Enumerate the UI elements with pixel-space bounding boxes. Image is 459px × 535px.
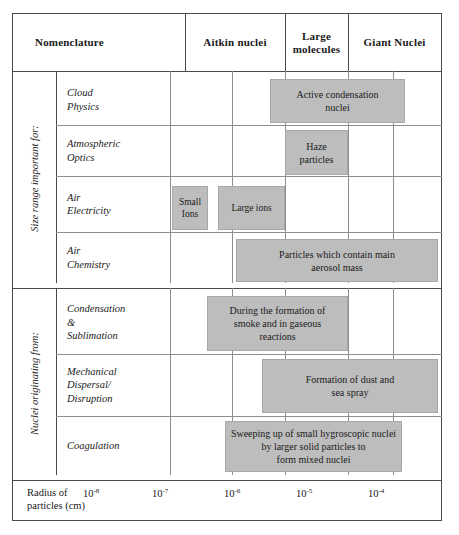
bar-main-aerosol-mass: Particles which contain main aerosol mas… <box>236 239 438 282</box>
bar-coagulation-sweeping: Sweeping up of small hygroscopic nuclei … <box>225 421 402 472</box>
axis-tick-3: 10-5 <box>296 488 312 499</box>
row-rule-3 <box>56 232 442 233</box>
row-label-air-chemistry: Air Chemistry <box>56 232 181 283</box>
row-label-air-electricity: Air Electricity <box>56 176 181 232</box>
header-nomenclature: Nomenclature <box>13 14 207 71</box>
axis-top-rule <box>13 480 442 481</box>
section-divider <box>13 288 442 289</box>
row-label-coagulation: Coagulation <box>56 416 181 475</box>
header-bottom-rule <box>13 71 442 72</box>
grid-line-1 <box>232 71 233 283</box>
axis-tick-2: 10-6 <box>224 488 240 499</box>
header-divider-1 <box>185 14 186 71</box>
bar-small-ions: Small Ions <box>172 186 208 230</box>
header-divider-3 <box>348 14 349 71</box>
axis-title: Radius of particles (cm) <box>27 487 85 512</box>
row-label-condensation-sublimation: Condensation & Sublimation <box>56 291 181 354</box>
bar-dust-sea-spray: Formation of dust and sea spray <box>262 359 438 413</box>
row-rule-4 <box>56 354 442 355</box>
axis-tick-4: 10-4 <box>368 488 384 499</box>
header-large-molecules: Large molecules <box>285 14 348 71</box>
group-label-nuclei-origin: Nuclei originating from: <box>13 291 56 475</box>
header-aitkin-nuclei: Aitkin nuclei <box>185 14 285 71</box>
row-label-cloud-physics: Cloud Physics <box>56 74 181 125</box>
axis-tick-0: 10-8 <box>83 488 99 499</box>
group-label-size-range: Size range important for: <box>13 74 56 283</box>
axis-tick-1: 10-7 <box>152 488 168 499</box>
row-label-atmospheric-optics: Atmospheric Optics <box>56 125 181 176</box>
bar-haze-particles: Haze particles <box>285 130 348 175</box>
header-divider-2 <box>285 14 286 71</box>
bar-active-condensation-nuclei: Active condensation nuclei <box>270 79 405 123</box>
bar-large-ions: Large ions <box>218 186 285 230</box>
header-giant-nuclei: Giant Nuclei <box>348 14 441 71</box>
figure-root: Nomenclature Aitkin nuclei Large molecul… <box>0 0 459 535</box>
row-label-mechanical-dispersal: Mechanical Dispersal/ Disruption <box>56 354 181 416</box>
bar-condensation-formation: During the formation of smoke and in gas… <box>207 296 348 351</box>
row-rule-5 <box>56 416 442 417</box>
row-rule-1 <box>56 125 442 126</box>
row-rule-2 <box>56 176 442 177</box>
